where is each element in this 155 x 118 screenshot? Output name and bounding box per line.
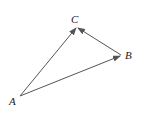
point-label-c: C xyxy=(71,14,78,25)
point-label-b: B xyxy=(125,50,132,61)
vector-diagram: C B A xyxy=(0,0,155,118)
vector-a-to-b xyxy=(20,56,120,96)
vector-a-to-c xyxy=(20,28,76,96)
vector-b-to-c xyxy=(78,28,121,55)
point-label-a: A xyxy=(9,96,16,107)
